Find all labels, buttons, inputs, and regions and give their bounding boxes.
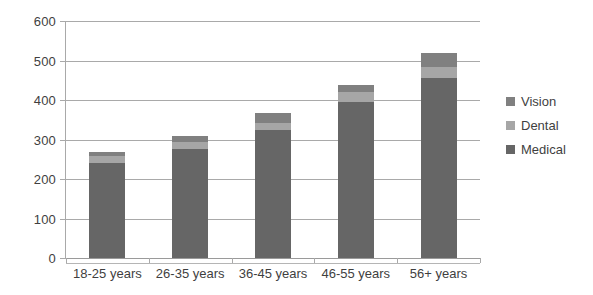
legend-label: Vision xyxy=(521,95,556,108)
bar-segment-dental[interactable] xyxy=(255,123,291,130)
legend-item[interactable]: Medical xyxy=(506,138,590,160)
y-axis-tick-label: 200 xyxy=(10,173,56,186)
bar-slot xyxy=(397,21,480,258)
bar-stack[interactable] xyxy=(421,53,457,258)
y-axis-tick-label: 500 xyxy=(10,55,56,68)
bar-slot xyxy=(149,21,232,258)
bar-slot xyxy=(66,21,149,258)
bar-stack[interactable] xyxy=(338,85,374,258)
x-axis-tick-label: 56+ years xyxy=(394,266,484,282)
y-tick-0 xyxy=(60,258,65,259)
legend-item[interactable]: Dental xyxy=(506,114,590,136)
x-axis-tick-label: 26-35 years xyxy=(145,266,235,282)
bar-segment-vision[interactable] xyxy=(421,53,457,67)
x-axis-tick-label: 18-25 years xyxy=(62,266,152,282)
y-tick-500 xyxy=(60,61,65,62)
y-tick-400 xyxy=(60,100,65,101)
bar-segment-dental[interactable] xyxy=(421,67,457,78)
legend-label: Medical xyxy=(521,143,566,156)
x-tick-separator xyxy=(480,258,481,263)
x-tick-separator xyxy=(314,258,315,263)
legend-item[interactable]: Vision xyxy=(506,90,590,112)
x-tick-separator xyxy=(232,258,233,263)
stacked-bar-chart: 6005004003002001000 18-25 years26-35 yea… xyxy=(0,0,593,295)
bar-segment-medical[interactable] xyxy=(338,102,374,258)
bar-segment-medical[interactable] xyxy=(421,78,457,258)
bar-segment-dental[interactable] xyxy=(89,156,125,163)
x-axis-tick-label: 46-55 years xyxy=(311,266,401,282)
y-tick-200 xyxy=(60,179,65,180)
x-tick-separator xyxy=(397,258,398,263)
x-tick-separator xyxy=(149,258,150,263)
bar-segment-medical[interactable] xyxy=(89,163,125,258)
legend-swatch-icon xyxy=(506,121,515,130)
y-axis-tick-label: 600 xyxy=(10,15,56,28)
bar-stack[interactable] xyxy=(89,152,125,258)
bar-segment-dental[interactable] xyxy=(338,92,374,102)
x-axis-line xyxy=(66,263,480,264)
y-axis-tick-label: 300 xyxy=(10,134,56,147)
bars-layer xyxy=(66,21,480,258)
y-axis-tick-label: 0 xyxy=(10,252,56,265)
bar-slot xyxy=(232,21,315,258)
legend-label: Dental xyxy=(521,119,559,132)
legend-swatch-icon xyxy=(506,145,515,154)
y-tick-300 xyxy=(60,140,65,141)
y-tick-100 xyxy=(60,219,65,220)
x-axis-tick-label: 36-45 years xyxy=(228,266,318,282)
y-tick-600 xyxy=(60,21,65,22)
bar-stack[interactable] xyxy=(255,113,291,258)
bar-segment-medical[interactable] xyxy=(172,149,208,258)
bar-segment-dental[interactable] xyxy=(172,142,208,150)
bar-segment-medical[interactable] xyxy=(255,130,291,258)
bar-segment-vision[interactable] xyxy=(338,85,374,92)
gridline-0 xyxy=(66,258,480,259)
x-tick-separator xyxy=(66,258,67,263)
chart-legend: VisionDentalMedical xyxy=(506,90,590,162)
y-axis-tick-label: 100 xyxy=(10,213,56,226)
bar-stack[interactable] xyxy=(172,136,208,258)
bar-segment-vision[interactable] xyxy=(255,113,291,123)
bar-slot xyxy=(314,21,397,258)
legend-swatch-icon xyxy=(506,97,515,106)
y-axis-tick-label: 400 xyxy=(10,94,56,107)
y-axis-labels: 6005004003002001000 xyxy=(8,0,56,295)
